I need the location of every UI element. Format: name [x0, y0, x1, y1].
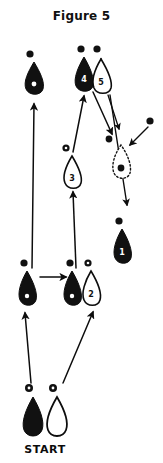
edge-start-to-lower-left	[25, 313, 31, 383]
nucleus-dot-stage-3-inner	[65, 147, 68, 150]
edge-start-to-stage-2	[63, 312, 93, 383]
nucleus-dot-stage-4	[77, 45, 84, 52]
node-stage-5[interactable]: 5	[93, 45, 111, 93]
inner-nucleus-lower-left	[25, 294, 29, 298]
figure-drawing: 4 5 3 1	[0, 0, 163, 463]
figure-canvas: Figure 5	[0, 0, 163, 463]
pear-body-stage-1	[114, 229, 131, 263]
node-stage-1[interactable]: 1	[114, 217, 131, 263]
pear-body-stage-5	[93, 59, 111, 93]
nucleus-dot-stage-2-partner	[66, 259, 73, 266]
cell-number-5: 5	[98, 78, 104, 87]
pear-body-stage-2-partner	[64, 271, 81, 305]
nucleus-dot-stage-1	[115, 217, 122, 224]
pear-body-start-dark	[23, 397, 43, 436]
inner-nucleus-dashed	[118, 165, 125, 172]
nucleus-dot-stage-2-inner	[87, 262, 90, 265]
node-start-light[interactable]	[47, 384, 67, 436]
node-stage-2[interactable]: 2	[83, 259, 100, 305]
pear-body-stage-3	[64, 156, 81, 188]
edge-stage-3-to-stage-4	[73, 96, 84, 152]
free-nucleus-dot-right	[146, 117, 153, 124]
edge-stage-2-to-stage-3	[73, 192, 76, 268]
cell-number-1: 1	[119, 248, 125, 257]
pear-body-start-light	[47, 397, 67, 436]
nucleus-dot-lower-left	[20, 259, 27, 266]
nucleus-dot-upper-left	[26, 50, 33, 57]
node-stage-4[interactable]: 4	[75, 45, 93, 91]
edge-lower-left-to-upper-left	[32, 104, 34, 268]
pear-body-dashed	[113, 145, 131, 178]
node-start-dark[interactable]	[23, 384, 43, 436]
cell-number-3: 3	[69, 174, 75, 183]
pear-body-upper-left	[25, 62, 43, 94]
nucleus-dot-start-light-inner	[52, 387, 55, 390]
node-stage-lower-left[interactable]	[19, 259, 36, 305]
cell-number-2: 2	[88, 290, 94, 299]
node-stage-upper-left[interactable]	[25, 50, 43, 94]
edge-free-dot-right-to-dashed	[130, 127, 148, 145]
pear-body-stage-2	[83, 271, 100, 305]
inner-nucleus-stage-2-partner	[70, 294, 74, 298]
nucleus-dot-start-dark-inner	[28, 387, 31, 390]
node-stage-dashed[interactable]	[113, 145, 131, 178]
cell-number-4: 4	[81, 75, 87, 84]
nucleus-dot-stage-5	[93, 45, 100, 52]
edge-stage-5-to-dashed	[108, 95, 119, 129]
free-nucleus-dot-mid	[106, 136, 113, 143]
start-label: START	[12, 443, 78, 456]
inner-nucleus-upper-left	[32, 82, 37, 87]
node-stage-2-partner[interactable]	[64, 259, 81, 305]
pear-body-lower-left	[19, 271, 36, 305]
edge-layer	[25, 92, 148, 383]
node-stage-3[interactable]: 3	[62, 144, 81, 188]
